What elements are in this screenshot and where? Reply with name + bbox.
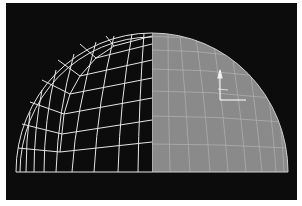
viewport-canvas[interactable] bbox=[0, 0, 302, 206]
